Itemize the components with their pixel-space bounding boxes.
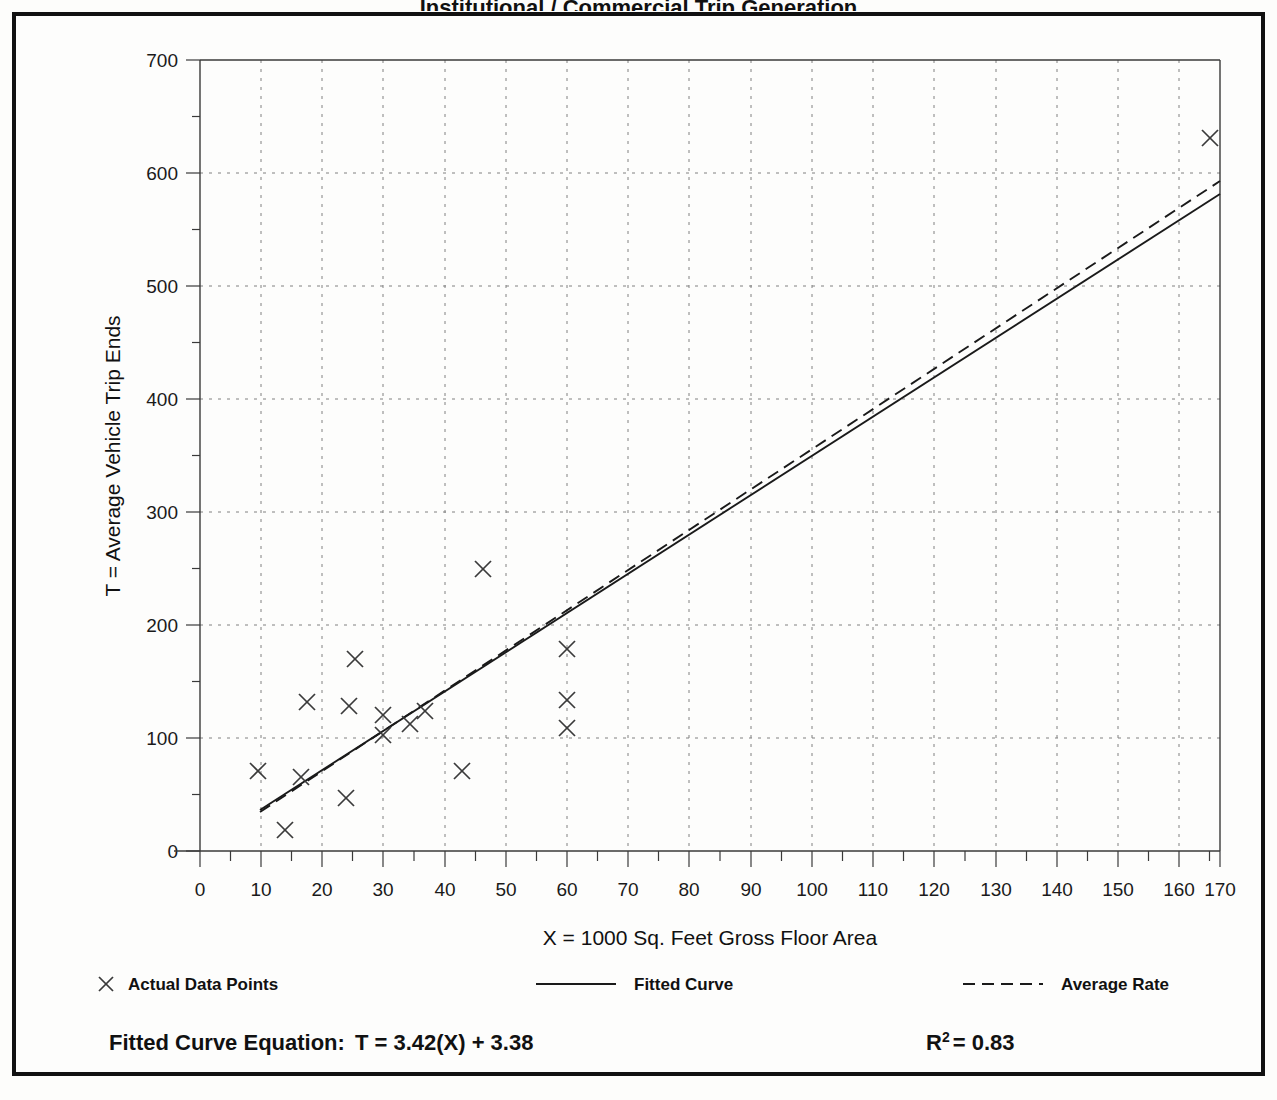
x-tick-label: 90 bbox=[740, 879, 761, 900]
x-tick-label: 20 bbox=[311, 879, 332, 900]
x-tick-label: 110 bbox=[858, 879, 888, 900]
x-tick-labels: 0 10 20 30 40 50 60 70 80 90 100 110 120… bbox=[195, 879, 1236, 900]
grid-horizontal bbox=[200, 173, 1220, 738]
x-tick-label: 50 bbox=[495, 879, 516, 900]
y-axis-title: T = Average Vehicle Trip Ends bbox=[101, 315, 124, 596]
data-point-marker bbox=[341, 698, 357, 714]
x-axis bbox=[174, 851, 1220, 867]
x-tick-label: 160 bbox=[1163, 879, 1195, 900]
x-tick-label: 70 bbox=[617, 879, 638, 900]
y-tick-label: 100 bbox=[146, 728, 178, 749]
x-tick-label: 130 bbox=[980, 879, 1012, 900]
r-equals: = 0.83 bbox=[953, 1030, 1015, 1055]
y-tick-label: 400 bbox=[146, 389, 178, 410]
chart-canvas: 0 100 200 300 400 500 600 700 bbox=[16, 16, 1269, 1080]
data-point-marker bbox=[347, 651, 363, 667]
equation-label: Fitted Curve Equation: bbox=[109, 1030, 345, 1055]
r-exponent: 2 bbox=[942, 1029, 950, 1045]
legend-label: Average Rate bbox=[1061, 975, 1169, 994]
x-tick-label: 0 bbox=[195, 879, 206, 900]
legend-item-fitted-curve[interactable]: Fitted Curve bbox=[536, 975, 733, 994]
x-tick-label: 40 bbox=[434, 879, 455, 900]
data-point-marker bbox=[559, 720, 575, 736]
data-point-marker bbox=[417, 703, 433, 719]
data-point-marker bbox=[250, 763, 266, 779]
data-point-marker bbox=[299, 694, 315, 710]
x-tick-label: 60 bbox=[556, 879, 577, 900]
x-tick-label: 100 bbox=[796, 879, 828, 900]
y-tick-label: 600 bbox=[146, 163, 178, 184]
equation-value: T = 3.42(X) + 3.38 bbox=[355, 1030, 534, 1055]
x-tick-label: 150 bbox=[1102, 879, 1134, 900]
data-points-group bbox=[250, 130, 1218, 838]
chart-legend: Actual Data Points Fitted Curve Average … bbox=[99, 975, 1169, 994]
x-axis-title: X = 1000 Sq. Feet Gross Floor Area bbox=[543, 926, 878, 949]
y-tick-label: 300 bbox=[146, 502, 178, 523]
x-tick-label: 170 bbox=[1204, 879, 1236, 900]
chart-page: Institutional / Commercial Trip Generati… bbox=[0, 0, 1277, 1100]
data-point-marker bbox=[1202, 130, 1218, 146]
legend-label: Actual Data Points bbox=[128, 975, 278, 994]
r-squared-value: R2= 0.83 bbox=[926, 1029, 1014, 1055]
data-point-marker bbox=[559, 692, 575, 708]
x-tick-label: 10 bbox=[250, 879, 271, 900]
data-point-marker bbox=[277, 822, 293, 838]
cutoff-chart-title: Institutional / Commercial Trip Generati… bbox=[0, 0, 1277, 11]
x-tick-label: 80 bbox=[678, 879, 699, 900]
legend-item-average-rate[interactable]: Average Rate bbox=[963, 975, 1169, 994]
x-tick-label: 120 bbox=[918, 879, 950, 900]
scatter-plot-svg: 0 100 200 300 400 500 600 700 bbox=[16, 16, 1269, 1080]
data-point-marker bbox=[475, 561, 491, 577]
y-tick-label: 700 bbox=[146, 50, 178, 71]
plot-frame bbox=[200, 60, 1220, 851]
data-point-marker bbox=[338, 790, 354, 806]
y-axis bbox=[186, 60, 200, 851]
fitted-curve-equation: Fitted Curve Equation:T = 3.42(X) + 3.38 bbox=[109, 1030, 533, 1055]
y-tick-label: 500 bbox=[146, 276, 178, 297]
r-symbol: R bbox=[926, 1030, 942, 1055]
y-tick-label: 200 bbox=[146, 615, 178, 636]
legend-item-actual-data-points[interactable]: Actual Data Points bbox=[99, 975, 278, 994]
chart-footer: Fitted Curve Equation:T = 3.42(X) + 3.38… bbox=[109, 1029, 1014, 1055]
data-point-marker bbox=[402, 716, 418, 732]
data-point-marker bbox=[454, 763, 470, 779]
x-tick-label: 140 bbox=[1041, 879, 1073, 900]
y-tick-labels: 0 100 200 300 400 500 600 700 bbox=[146, 50, 178, 862]
grid-vertical bbox=[261, 60, 1179, 851]
x-tick-label: 30 bbox=[372, 879, 393, 900]
chart-frame-border: 0 100 200 300 400 500 600 700 bbox=[12, 12, 1265, 1076]
legend-label: Fitted Curve bbox=[634, 975, 733, 994]
